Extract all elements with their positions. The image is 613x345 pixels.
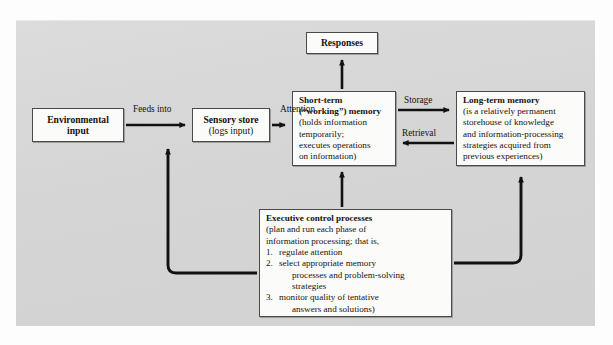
edge-executive-control-to-sensory-store: [168, 149, 257, 273]
long-term-memory-title: Long-term memory: [463, 95, 579, 106]
executive-control-item-3-cont-1: answers and solutions): [279, 304, 446, 315]
executive-control-item-2: 2.select appropriate memory processes an…: [266, 258, 446, 292]
executive-control-title: Executive control processes: [266, 213, 446, 224]
executive-control-item-1: 1.regulate attention: [266, 247, 446, 258]
executive-control-item-1-text: regulate attention: [279, 247, 342, 257]
short-term-memory-line-1: (holds information: [299, 117, 390, 128]
environmental-input-line-1: Environmental: [47, 114, 109, 125]
node-executive-control-processes: Executive control processes (plan and ru…: [259, 209, 452, 317]
short-term-memory-line-3: executes operations: [299, 140, 390, 151]
long-term-memory-line-5: previous experiences): [463, 151, 579, 162]
node-short-term-memory: Short-term (“working”) memory (holds inf…: [292, 91, 396, 166]
sensory-store-title: Sensory store: [204, 114, 259, 126]
edge-label-feeds-into: Feeds into: [133, 104, 171, 114]
executive-control-item-3: 3.monitor quality of tentative answers a…: [266, 292, 446, 315]
node-environmental-input: Environmental input: [32, 108, 124, 142]
executive-control-item-list: 1.regulate attention 2.select appropriat…: [266, 247, 446, 315]
long-term-memory-line-3: and information-processing: [463, 129, 579, 140]
executive-control-item-3-text: monitor quality of tentative: [279, 292, 379, 302]
executive-control-line-2: information processing; that is,: [266, 236, 446, 247]
edge-executive-control-to-long-term-memory: [454, 177, 521, 263]
executive-control-line-1: (plan and run each phase of: [266, 224, 446, 235]
environmental-input-line-2: input: [47, 125, 109, 136]
node-long-term-memory: Long-term memory (is a relatively perman…: [456, 91, 585, 166]
edge-label-storage: Storage: [404, 95, 432, 105]
executive-control-item-2-number: 2.: [266, 258, 279, 269]
executive-control-item-1-number: 1.: [266, 247, 279, 258]
executive-control-item-2-cont-2: strategies: [279, 281, 446, 292]
node-responses: Responses: [306, 32, 378, 54]
responses-title: Responses: [321, 38, 363, 49]
executive-control-item-2-cont-1: processes and problem-solving: [279, 270, 446, 281]
executive-control-item-2-text: select appropriate memory: [279, 258, 376, 268]
long-term-memory-line-2: storehouse of knowledge: [463, 117, 579, 128]
short-term-memory-line-2: temporarily;: [299, 129, 390, 140]
edge-label-attention: Attention: [280, 104, 315, 114]
executive-control-item-3-number: 3.: [266, 292, 279, 303]
edge-label-retrieval: Retrieval: [402, 128, 436, 138]
sensory-store-line-1: (logs input): [204, 125, 259, 137]
short-term-memory-line-4: on information): [299, 151, 390, 162]
long-term-memory-line-4: strategies acquired from: [463, 140, 579, 151]
long-term-memory-line-1: (is a relatively permanent: [463, 106, 579, 117]
node-sensory-store: Sensory store (logs input): [192, 108, 270, 142]
figure-root: Environmental input Sensory store (logs …: [0, 0, 613, 345]
